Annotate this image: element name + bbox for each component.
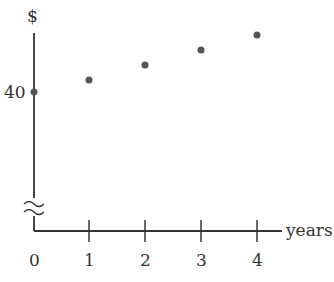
- x-axis-label: years: [286, 222, 333, 239]
- data-point: [31, 89, 38, 96]
- data-point: [254, 32, 261, 39]
- data-point: [198, 47, 205, 54]
- y-axis-label: $: [27, 8, 38, 25]
- y-tick-label: 40: [4, 84, 26, 101]
- x-tick-label: 3: [196, 252, 207, 269]
- x-tick-label: 1: [84, 252, 95, 269]
- chart-canvas: [0, 0, 334, 282]
- axis-break-icon: [24, 202, 44, 207]
- x-tick-label: 4: [252, 252, 263, 269]
- data-point: [142, 62, 149, 69]
- x-tick-label: 2: [140, 252, 151, 269]
- x-tick-label: 0: [29, 252, 40, 269]
- data-point: [86, 77, 93, 84]
